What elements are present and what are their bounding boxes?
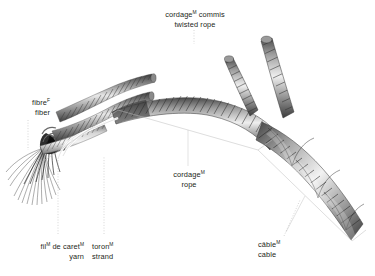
gender-marker: M: [109, 242, 113, 247]
label-yarn-fr: filM de caretM: [10, 240, 84, 252]
label-yarn-en: yarn: [10, 252, 84, 261]
label-cable-fr: câbleM: [258, 238, 320, 250]
gender-marker: M: [80, 242, 84, 247]
leader-cable: [284, 200, 300, 236]
label-fibre-fr: fibreF: [4, 96, 50, 108]
rope-illustration: [0, 0, 375, 276]
label-fibre-en: fiber: [4, 108, 50, 117]
label-title-fr: cordageM commis: [148, 8, 242, 20]
bracket-cable-tick: [286, 196, 305, 232]
label-rope-en: rope: [156, 180, 222, 189]
label-strand: toronM strand: [92, 240, 146, 261]
label-strand-fr: toronM: [92, 240, 146, 252]
label-cable: câbleM cable: [258, 238, 320, 259]
label-title-en: twisted rope: [148, 20, 242, 29]
label-rope-fr: cordageM: [156, 168, 222, 180]
cable-body: [256, 122, 364, 242]
label-cable-en: cable: [258, 250, 320, 259]
gender-marker: M: [201, 170, 205, 175]
gender-marker: F: [47, 98, 50, 103]
rope-branch-top: [261, 36, 298, 118]
gender-marker: M: [276, 240, 280, 245]
label-fibre: fibreF fiber: [4, 96, 50, 117]
label-title: cordageM commis twisted rope: [148, 8, 242, 29]
rope-diagram-figure: cordageM commis twisted rope fibreF fibe…: [0, 0, 375, 276]
label-yarn: filM de caretM yarn: [10, 240, 84, 261]
label-rope: cordageM rope: [156, 168, 222, 189]
label-strand-en: strand: [92, 252, 146, 261]
